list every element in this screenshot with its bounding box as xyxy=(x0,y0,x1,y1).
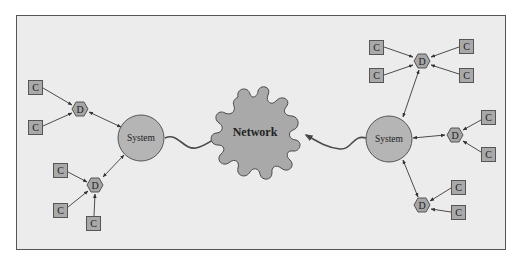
client-node: C xyxy=(460,40,474,54)
device-node-right-middle: D xyxy=(447,128,463,142)
device-label: D xyxy=(76,104,83,115)
client-node: C xyxy=(370,69,384,83)
device-label: D xyxy=(418,200,425,211)
device-node-left-top: D xyxy=(72,102,88,116)
client-label: C xyxy=(57,205,64,216)
client-label: C xyxy=(32,122,39,133)
client-label: C xyxy=(373,70,380,81)
client-node: C xyxy=(54,204,68,218)
device-label: D xyxy=(418,56,425,67)
device-node-left-bottom: D xyxy=(87,178,103,192)
device-node-right-bottom: D xyxy=(414,198,430,212)
system-node-right: System xyxy=(366,116,412,162)
client-label: C xyxy=(32,82,39,93)
client-node: C xyxy=(460,69,474,83)
client-label: C xyxy=(463,41,470,52)
client-label: C xyxy=(90,218,97,229)
client-label: C xyxy=(455,207,462,218)
client-label: C xyxy=(455,182,462,193)
client-node: C xyxy=(452,206,466,220)
client-label: C xyxy=(485,149,492,160)
system-label: System xyxy=(375,134,404,144)
system-node-left: System xyxy=(118,115,164,161)
device-label: D xyxy=(91,180,98,191)
client-label: C xyxy=(373,42,380,53)
network-diagram: Network System System D D D D D C C xyxy=(0,0,515,257)
device-label: D xyxy=(451,130,458,141)
client-node: C xyxy=(54,164,68,178)
client-node: C xyxy=(370,41,384,55)
client-node: C xyxy=(482,148,496,162)
client-node: C xyxy=(482,111,496,125)
client-label: C xyxy=(463,70,470,81)
client-label: C xyxy=(485,112,492,123)
network-label: Network xyxy=(233,125,278,139)
device-node-right-top: D xyxy=(414,54,430,68)
system-label: System xyxy=(127,133,156,143)
client-node: C xyxy=(452,181,466,195)
client-label: C xyxy=(57,165,64,176)
client-node: C xyxy=(29,121,43,135)
client-node: C xyxy=(87,217,101,231)
client-node: C xyxy=(29,81,43,95)
